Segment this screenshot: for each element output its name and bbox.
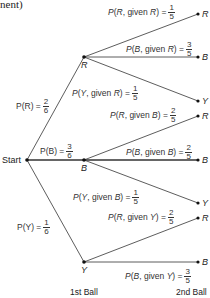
node-label-r: R bbox=[81, 61, 88, 70]
prob-label-r: P(R) =26 bbox=[16, 98, 49, 115]
leaf-label-bb: B bbox=[202, 156, 208, 165]
leaf-label-yr: R bbox=[202, 214, 209, 223]
leaf-ry bbox=[196, 99, 199, 102]
cond-prob-r-given-b: P(R, given B) =25 bbox=[110, 107, 176, 124]
cond-prob-b-given-y: P(B, given Y) =35 bbox=[125, 268, 191, 285]
leaf-label-yb: B bbox=[202, 258, 208, 267]
node-y bbox=[82, 260, 86, 264]
leaf-bb bbox=[196, 158, 199, 161]
leaf-label-ry: Y bbox=[202, 97, 208, 106]
leaf-label-rr: R bbox=[202, 10, 209, 19]
leaf-label-br: R bbox=[202, 112, 209, 121]
leaf-yb bbox=[196, 260, 199, 263]
leaf-br bbox=[196, 114, 199, 117]
cond-prob-y-given-b: P(Y, given B) =15 bbox=[73, 189, 139, 206]
node-label-b: B bbox=[81, 164, 87, 173]
leaf-rb bbox=[196, 55, 199, 58]
leaf-by bbox=[196, 201, 199, 204]
cond-prob-b-given-b: P(B, given B) =25 bbox=[126, 144, 192, 161]
cond-prob-r-given-r: P(R, given R) =15 bbox=[108, 4, 175, 21]
node-label-y: Y bbox=[81, 266, 87, 275]
leaf-rr bbox=[196, 12, 199, 15]
first-ball-label: 1st Ball bbox=[70, 288, 98, 297]
cond-prob-r-given-y: P(R, given Y) =25 bbox=[108, 209, 174, 226]
leaf-label-rb: B bbox=[202, 53, 208, 62]
prob-label-y: P(Y) =16 bbox=[17, 219, 50, 236]
second-ball-label: 2nd Ball bbox=[176, 288, 207, 297]
cond-prob-y-given-r: P(Y, given R) =15 bbox=[72, 85, 138, 102]
prob-label-b: P(B) =36 bbox=[40, 143, 73, 160]
start-node bbox=[25, 158, 29, 162]
leaf-label-by: Y bbox=[202, 199, 208, 208]
cond-prob-b-given-r: P(B, given R) =35 bbox=[126, 41, 192, 58]
node-b bbox=[82, 158, 86, 162]
start-label: Start bbox=[2, 156, 21, 165]
branch-start-y bbox=[27, 160, 84, 262]
leaf-yr bbox=[196, 216, 199, 219]
node-r bbox=[82, 55, 86, 59]
